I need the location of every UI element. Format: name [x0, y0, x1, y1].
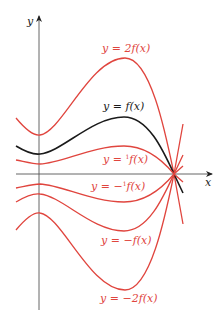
curve-half-f	[16, 146, 183, 182]
label-f: y = f(x)	[102, 100, 144, 113]
x-axis-label: x	[205, 176, 212, 189]
curve-neg-f	[16, 155, 183, 231]
label-2f: y = 2f(x)	[101, 42, 150, 55]
label-neg-2f: y = −2f(x)	[99, 292, 158, 305]
label-neg-half-f: y = −1f(x)	[90, 180, 145, 193]
label-neg-f: y = −f(x)	[100, 234, 152, 247]
y-axis-label: y	[26, 15, 34, 28]
label-half-f: y = 1f(x)	[102, 153, 148, 166]
vertical-scaling-diagram: x y y = 2f(x) y = f(x) y = 1f(x) y = −1f…	[0, 0, 221, 320]
